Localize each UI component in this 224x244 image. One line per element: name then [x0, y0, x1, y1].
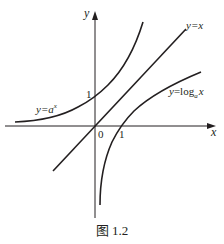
origin-label: 0	[98, 128, 104, 140]
logarithm-label: y=logax	[168, 85, 204, 100]
graph-canvas: y x 0 1 1 y=ax y=x y=logax	[0, 0, 224, 244]
figure-caption: 图 1.2	[0, 220, 224, 239]
exponential-curve	[15, 22, 143, 122]
identity-label: y=x	[185, 19, 203, 31]
function-graph-figure: y x 0 1 1 y=ax y=x y=logax 图 1.2	[0, 0, 224, 244]
y-axis-arrow-icon	[92, 11, 98, 20]
x-axis-label: x	[210, 125, 217, 139]
y-axis-label: y	[83, 6, 90, 20]
exponential-label: y=ax	[35, 102, 58, 115]
identity-line	[53, 29, 186, 171]
y-tick-one-label: 1	[86, 88, 92, 100]
x-tick-one-label: 1	[119, 128, 125, 140]
